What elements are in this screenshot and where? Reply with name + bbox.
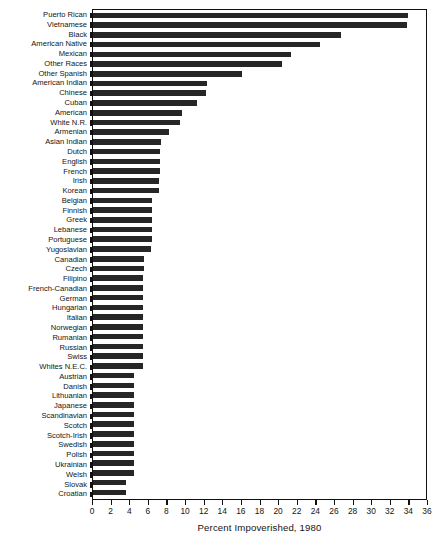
category-label: Lebanese <box>0 226 92 233</box>
category-label: Filipino <box>0 275 92 282</box>
bar <box>93 129 169 135</box>
category-label: Asian Indian <box>0 138 92 145</box>
bar-row <box>93 294 426 301</box>
category-label: Japanese <box>0 402 92 409</box>
x-axis-tick <box>129 500 130 505</box>
bar <box>93 402 134 408</box>
bar <box>93 353 143 359</box>
bar-row <box>93 177 426 184</box>
category-label: English <box>0 158 92 165</box>
category-label: Canadian <box>0 256 92 263</box>
bar <box>93 81 207 87</box>
category-label: Austrian <box>0 373 92 380</box>
category-label: Korean <box>0 187 92 194</box>
x-axis-tick <box>148 500 149 505</box>
bar <box>93 149 160 155</box>
bar <box>93 373 134 379</box>
bar-row <box>93 421 426 428</box>
category-label: Swiss <box>0 353 92 360</box>
bar-row <box>93 304 426 311</box>
bar <box>93 451 134 457</box>
x-axis-tick-label: 24 <box>311 506 320 516</box>
bar-row <box>93 236 426 243</box>
x-axis-tick-label: 32 <box>385 506 394 516</box>
x-axis-tick-label: 18 <box>255 506 264 516</box>
bar-row <box>93 343 426 350</box>
bar-row <box>93 382 426 389</box>
bar <box>93 412 134 418</box>
bar <box>93 431 134 437</box>
bar <box>93 13 408 19</box>
x-axis-tick-label: 34 <box>404 506 413 516</box>
bar-rows <box>93 10 426 499</box>
category-label: Chinese <box>0 89 92 96</box>
plot-area <box>92 9 427 500</box>
bar-row <box>93 431 426 438</box>
bar-row <box>93 362 426 369</box>
x-axis-title: Percent Impoverished, 1980 <box>92 522 427 533</box>
category-label: Norwegian <box>0 324 92 331</box>
category-label: Dutch <box>0 148 92 155</box>
bar <box>93 100 197 106</box>
bar <box>93 480 126 486</box>
x-axis-tick <box>297 500 298 505</box>
bar-row <box>93 158 426 165</box>
bar <box>93 227 152 233</box>
bar-row <box>93 440 426 447</box>
bar-row <box>93 401 426 408</box>
bar <box>93 120 180 126</box>
category-label: Swedish <box>0 441 92 448</box>
bar <box>93 490 126 496</box>
bar <box>93 110 182 116</box>
category-label: Puerto Rican <box>0 11 92 18</box>
x-axis-tick <box>371 500 372 505</box>
bar <box>93 460 134 466</box>
category-label: Irish <box>0 177 92 184</box>
x-axis-tick-label: 26 <box>329 506 338 516</box>
category-label: Portuguese <box>0 236 92 243</box>
bar-row <box>93 372 426 379</box>
bar-row <box>93 353 426 360</box>
category-label: Other Races <box>0 60 92 67</box>
bar-row <box>93 12 426 19</box>
category-label: Welsh <box>0 471 92 478</box>
x-axis-tick-label: 30 <box>366 506 375 516</box>
x-axis-tick-label: 2 <box>108 506 113 516</box>
bar <box>93 198 152 204</box>
x-axis-tick <box>222 500 223 505</box>
category-label: Hungarian <box>0 304 92 311</box>
bar <box>93 90 206 96</box>
bar-row <box>93 255 426 262</box>
bar <box>93 188 159 194</box>
x-axis-tick-label: 14 <box>218 506 227 516</box>
bar <box>93 246 151 252</box>
bar <box>93 139 161 145</box>
category-label: Russian <box>0 344 92 351</box>
bar-row <box>93 265 426 272</box>
x-axis-tick-label: 20 <box>273 506 282 516</box>
bar-row <box>93 460 426 467</box>
bar-row <box>93 148 426 155</box>
bar <box>93 52 291 58</box>
bar <box>93 275 143 281</box>
bar-row <box>93 129 426 136</box>
x-axis-tick <box>334 500 335 505</box>
bar <box>93 383 134 389</box>
category-label: Whites N.E.C. <box>0 363 92 370</box>
category-label: French-Canadian <box>0 285 92 292</box>
bar <box>93 217 152 223</box>
bar <box>93 168 160 174</box>
category-label: Cuban <box>0 99 92 106</box>
bar-row <box>93 314 426 321</box>
bar <box>93 344 143 350</box>
category-label: Finnish <box>0 207 92 214</box>
x-axis-tick-label: 22 <box>292 506 301 516</box>
category-label: Black <box>0 31 92 38</box>
x-axis-tick <box>204 500 205 505</box>
category-label: Czech <box>0 265 92 272</box>
category-label: American <box>0 109 92 116</box>
bar <box>93 178 159 184</box>
x-axis: Percent Impoverished, 1980 0246810121416… <box>92 500 427 546</box>
category-label: German <box>0 295 92 302</box>
bar-row <box>93 70 426 77</box>
